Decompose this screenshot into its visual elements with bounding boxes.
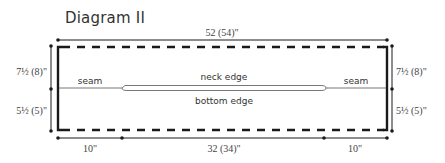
bottom-left-label: 10" [83, 143, 97, 154]
left-lower-label: 5½ (5)" [16, 105, 47, 117]
neck-opening [122, 86, 326, 91]
seam-label-left: seam [78, 76, 103, 86]
schematic-diagram: 52 (54)" 7½ (8)" 5½ (5)" 7½ (8)" 5½ (5)"… [0, 0, 445, 163]
left-dimension-line [49, 44, 53, 133]
right-upper-label: 7½ (8)" [396, 66, 427, 78]
neck-edge-label: neck edge [201, 72, 248, 82]
bottom-dimension-line [56, 136, 389, 140]
bottom-right-label: 10" [348, 143, 362, 154]
left-solid-edge [58, 47, 62, 130]
right-lower-label: 5½ (5)" [396, 105, 427, 117]
top-width-label: 52 (54)" [205, 27, 238, 39]
top-dimension-line [56, 38, 389, 42]
bottom-middle-label: 32 (34)" [207, 143, 240, 155]
left-upper-label: 7½ (8)" [16, 66, 47, 78]
bottom-edge-label: bottom edge [195, 96, 253, 106]
right-solid-edge [383, 47, 387, 130]
right-dimension-line [390, 44, 394, 133]
seam-label-right: seam [344, 76, 369, 86]
